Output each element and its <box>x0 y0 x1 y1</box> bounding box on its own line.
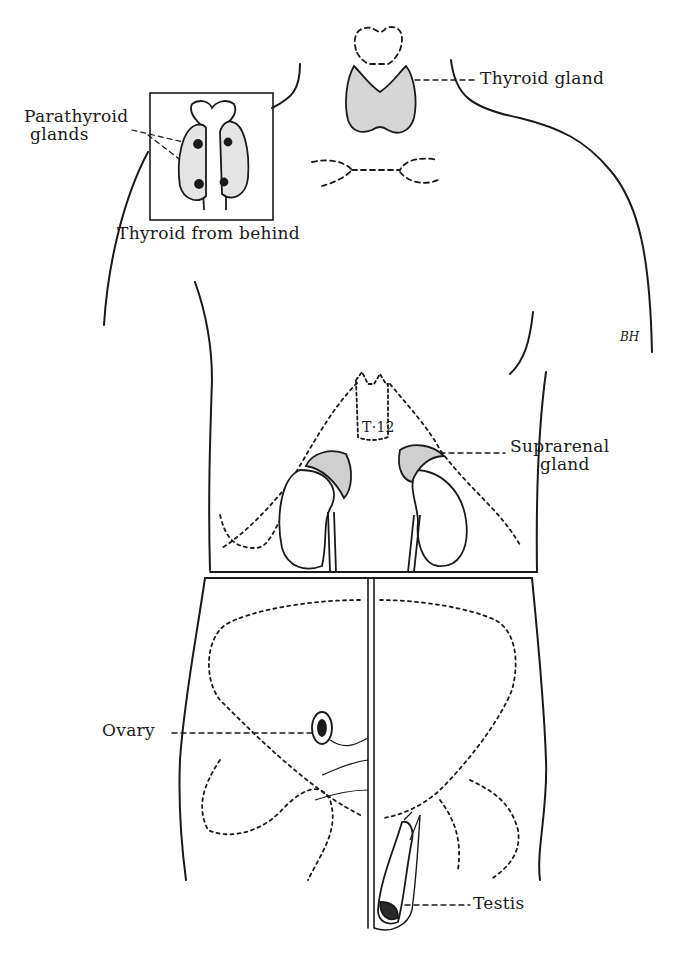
left-ureter <box>328 512 336 572</box>
clavicle-right <box>352 159 438 183</box>
left-hip-outline <box>179 578 205 880</box>
right-ureter <box>408 515 420 572</box>
clavicle-left <box>312 160 352 186</box>
label-testis: Testis <box>473 895 525 913</box>
left-kidney <box>279 470 333 569</box>
pelvis-left-lower <box>202 760 333 880</box>
pelvis-left-ilium <box>209 600 362 816</box>
back-torso-right <box>510 312 533 374</box>
parathyroid-dot-3 <box>225 139 232 146</box>
left-shoulder-outline <box>272 64 300 108</box>
back-torso-left <box>195 282 212 570</box>
right-kidney <box>413 470 467 566</box>
label-parathyroid-glands: Parathyroid glands <box>24 108 128 144</box>
inset-frame <box>150 93 273 220</box>
label-thyroid-from-behind: Thyroid from behind <box>117 225 300 243</box>
label-vertebra-t12: T·12 <box>362 420 395 435</box>
parathyroid-dot-4 <box>221 179 228 186</box>
ovary-core <box>318 720 326 736</box>
right-hip-outline <box>532 578 546 880</box>
label-suprarenal-gland: Suprarenal gland <box>510 438 609 474</box>
larynx-outline <box>355 27 402 64</box>
parathyroid-dot-2 <box>195 180 203 188</box>
artist-signature: BH <box>620 330 639 344</box>
label-parathyroid-line2: glands <box>24 126 128 144</box>
parathyroid-dot-1 <box>194 140 202 148</box>
thyroid-gland <box>346 66 416 133</box>
label-thyroid-gland: Thyroid gland <box>480 70 604 88</box>
label-suprarenal-line2: gland <box>510 456 609 474</box>
pelvis-right-lower <box>440 780 519 880</box>
label-ovary: Ovary <box>102 722 155 740</box>
right-neck-shoulder-outline <box>451 60 652 352</box>
pelvis-right-ilium <box>380 600 516 818</box>
inset-thyroid-left-lobe <box>179 124 206 200</box>
